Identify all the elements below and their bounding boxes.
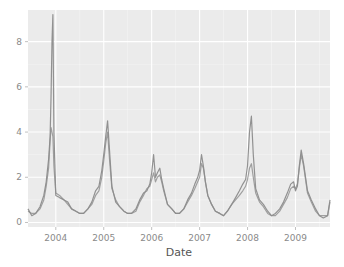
y-tick-label: 2 bbox=[16, 172, 22, 182]
x-tick-label: 2004 bbox=[44, 233, 67, 243]
y-axis-ticks: 02468 bbox=[16, 37, 28, 228]
line-chart: 02468 200420052006200720082009 Date bbox=[0, 0, 344, 267]
y-tick-label: 0 bbox=[16, 217, 22, 227]
x-tick-label: 2007 bbox=[188, 233, 211, 243]
x-tick-label: 2005 bbox=[92, 233, 115, 243]
x-tick-label: 2006 bbox=[140, 233, 163, 243]
y-tick-label: 8 bbox=[16, 37, 22, 47]
x-tick-label: 2008 bbox=[236, 233, 259, 243]
x-axis-title: Date bbox=[166, 246, 193, 259]
plot-panel bbox=[28, 10, 330, 227]
y-tick-label: 4 bbox=[16, 127, 22, 137]
y-tick-label: 6 bbox=[16, 82, 22, 92]
x-axis-ticks: 200420052006200720082009 bbox=[44, 227, 307, 243]
x-tick-label: 2009 bbox=[284, 233, 307, 243]
